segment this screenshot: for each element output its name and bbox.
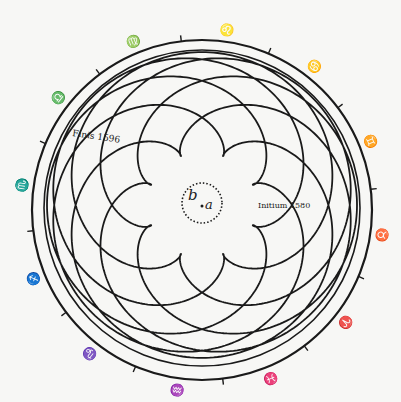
epicycle-diagram: ♍♌♋♊♉♈♓♒♑♐♏♎ b a Finis 1596 Initium 1580 (0, 0, 401, 402)
ring-tick (359, 276, 365, 278)
ring-tick (268, 48, 270, 54)
ring-tick (304, 346, 308, 351)
ring-tick (338, 104, 343, 108)
zodiac-capricorn-icon: ♑ (80, 343, 100, 363)
ring-tick (371, 189, 377, 190)
ring-tick (27, 231, 33, 232)
ring-tick (96, 69, 100, 74)
ring-tick (133, 367, 135, 373)
ring-tick (223, 379, 224, 385)
annotation-initium: Initium 1580 (258, 201, 310, 210)
label-b: b (188, 186, 198, 204)
zodiac-gemini-icon: ♊ (361, 132, 380, 151)
label-a: a (205, 197, 213, 212)
zodiac-taurus-icon: ♉ (374, 227, 390, 244)
zodiac-scorpio-icon: ♏ (14, 176, 30, 193)
ring-ticks (27, 35, 376, 384)
zodiac-aries-icon: ♈ (335, 312, 355, 332)
zodiac-aquarius-icon: ♒ (168, 382, 185, 398)
earth-point-dot (201, 205, 204, 208)
zodiac-cancer-icon: ♋ (304, 56, 324, 76)
ring-tick (61, 312, 66, 316)
annotation-finis: Finis 1596 (72, 128, 121, 145)
zodiac-libra-icon: ♎ (48, 88, 68, 108)
zodiac-pisces-icon: ♓ (261, 369, 280, 388)
zodiac-leo-icon: ♌ (219, 22, 236, 38)
zodiac-sagittarius-icon: ♐ (24, 269, 43, 288)
ring-tick (40, 141, 46, 143)
ring-tick (181, 35, 182, 41)
zodiac-signs: ♍♌♋♊♉♈♓♒♑♐♏♎ (14, 22, 390, 398)
zodiac-virgo-icon: ♍ (124, 32, 143, 51)
